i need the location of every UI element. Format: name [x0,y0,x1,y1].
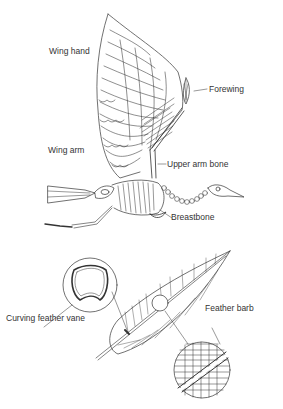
barb-magnifier [165,311,230,398]
illustration [0,0,283,409]
label-wing-arm: Wing arm [48,146,84,155]
diagram-canvas: Wing hand Forewing Wing arm Upper arm bo… [0,0,283,409]
label-upper-arm-bone: Upper arm bone [167,160,228,169]
label-feather-barb: Feather barb [205,304,254,313]
wing-drawing [97,14,189,178]
label-wing-hand: Wing hand [49,47,90,56]
label-forewing: Forewing [209,85,244,94]
label-curving-feather-vane: Curving feather vane [6,314,85,323]
label-breastbone: Breastbone [171,213,214,222]
